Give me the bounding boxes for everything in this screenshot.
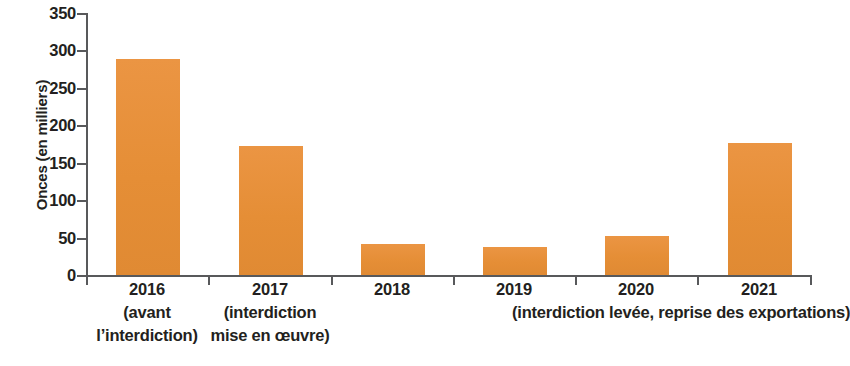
bar-2017 <box>239 146 303 275</box>
x-category-2021: 2021 <box>695 278 823 301</box>
x-category-year: 2019 <box>450 278 578 301</box>
x-category-note2: l’interdiction) <box>83 324 211 347</box>
y-tick-mark <box>77 163 86 165</box>
y-tick-mark <box>77 275 86 277</box>
y-tick-label: 350 <box>30 5 76 22</box>
x-axis-annotation: (interdiction levée, reprise des exporta… <box>512 301 802 324</box>
bar-2019 <box>483 247 547 275</box>
y-axis-tick-labels: 350 300 250 200 150 100 50 0 <box>26 0 76 366</box>
y-tick-label: 300 <box>30 42 76 59</box>
plot-area <box>86 13 812 275</box>
y-tick-label: 100 <box>30 192 76 209</box>
x-axis-annotation-line1: (interdiction levée, <box>512 303 654 321</box>
x-category-year: 2020 <box>572 278 700 301</box>
y-axis-line <box>86 13 88 275</box>
y-tick-mark <box>77 13 86 15</box>
x-axis-annotation-line2: reprise des exportations) <box>658 303 850 321</box>
x-category-note2: mise en œuvre) <box>206 324 334 347</box>
y-tick-label: 50 <box>30 230 76 247</box>
x-category-note1: (avant <box>83 301 211 324</box>
y-tick-label: 250 <box>30 80 76 97</box>
y-tick-label: 0 <box>30 267 76 284</box>
bar-2020 <box>605 236 669 275</box>
x-category-year: 2017 <box>206 278 334 301</box>
x-category-2019: 2019 <box>450 278 578 301</box>
x-category-2017: 2017 (interdiction mise en œuvre) <box>206 278 334 347</box>
x-category-year: 2021 <box>695 278 823 301</box>
y-tick-mark <box>77 200 86 202</box>
y-tick-mark <box>77 238 86 240</box>
y-tick-label: 200 <box>30 117 76 134</box>
x-category-note1: (interdiction <box>206 301 334 324</box>
bar-2018 <box>361 244 425 275</box>
x-category-2018: 2018 <box>328 278 456 301</box>
x-category-year: 2018 <box>328 278 456 301</box>
bar-2016 <box>116 59 180 275</box>
x-category-year: 2016 <box>83 278 211 301</box>
x-category-2020: 2020 <box>572 278 700 301</box>
y-tick-mark <box>77 88 86 90</box>
x-axis-labels: 2016 (avant l’interdiction) 2017 (interd… <box>86 278 812 366</box>
x-category-2016: 2016 (avant l’interdiction) <box>83 278 211 347</box>
x-axis-line <box>86 275 812 277</box>
y-tick-mark <box>77 125 86 127</box>
y-tick-label: 150 <box>30 155 76 172</box>
bar-2021 <box>728 143 792 275</box>
y-tick-mark <box>77 50 86 52</box>
